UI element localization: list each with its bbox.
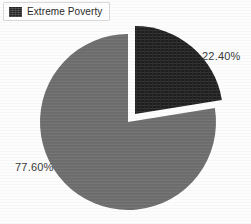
- legend-swatch-extreme-poverty: [9, 7, 22, 17]
- pie-plot-area: [0, 0, 251, 224]
- chart-legend[interactable]: Extreme Poverty: [3, 2, 110, 21]
- pie-svg: [0, 0, 251, 224]
- pie-chart-figure: Extreme Poverty 22.40% 77.60%: [0, 0, 251, 224]
- pie-slice-extreme-poverty[interactable]: [135, 26, 222, 114]
- data-label-other: 77.60%: [15, 161, 54, 173]
- data-label-extreme-poverty: 22.40%: [202, 50, 241, 62]
- legend-label-extreme-poverty: Extreme Poverty: [27, 6, 102, 17]
